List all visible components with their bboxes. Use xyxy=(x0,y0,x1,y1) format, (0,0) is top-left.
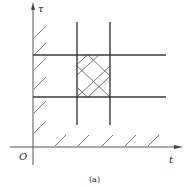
tau-axis-arrow-icon xyxy=(31,2,35,10)
tau-axis-hatching xyxy=(34,26,46,133)
t-axis-label: t xyxy=(169,154,174,165)
origin-label: O xyxy=(19,151,27,162)
t-axis xyxy=(10,145,183,149)
diagram-canvas: τ t O (a) xyxy=(0,0,190,187)
t-axis-arrow-icon xyxy=(174,145,183,149)
tau-axis-label: τ xyxy=(38,3,44,14)
figure-caption: (a) xyxy=(89,175,100,184)
vertical-lines xyxy=(77,22,110,125)
tau-axis xyxy=(31,2,35,165)
cross-hatched-region xyxy=(66,44,121,108)
t-axis-hatching xyxy=(55,135,159,146)
